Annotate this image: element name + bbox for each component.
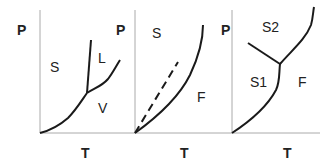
y-label: P <box>221 22 230 38</box>
region-label: V <box>98 100 108 116</box>
region-label: S <box>152 25 161 41</box>
region-label: S1 <box>250 74 267 90</box>
melting-curve <box>87 40 91 93</box>
x-label: T <box>180 145 189 161</box>
panel-3: P T S2 S1 F <box>221 7 320 161</box>
x-label: T <box>81 145 90 161</box>
dashed-line <box>135 62 178 133</box>
region-label: F <box>298 74 307 90</box>
region-label: S <box>50 59 59 75</box>
panel-2: P T S F <box>116 10 232 161</box>
sublimation-curve <box>40 93 87 133</box>
x-label: T <box>283 145 292 161</box>
region-label: F <box>197 89 206 105</box>
y-label: P <box>116 22 125 38</box>
s2-f-boundary <box>280 7 314 64</box>
y-label: P <box>17 22 26 38</box>
region-label: S2 <box>262 19 279 35</box>
s1-s2-boundary <box>248 43 280 64</box>
region-label: L <box>98 50 106 66</box>
phase-diagrams: P T S L V P T S F P T S2 S1 F <box>0 0 334 166</box>
